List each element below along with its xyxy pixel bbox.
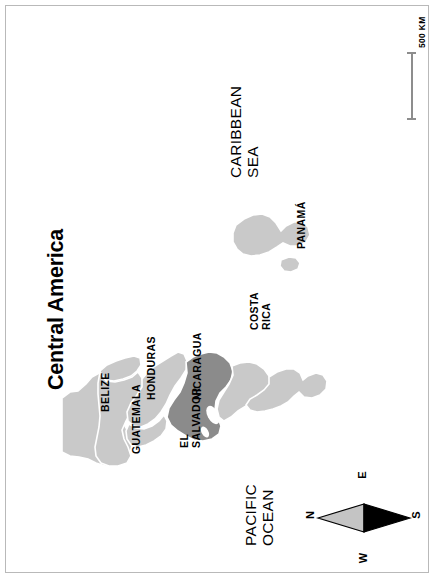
country-label-el-salvador-line1: EL (178, 434, 190, 448)
scale-bar-label: 500 KM (417, 16, 427, 48)
country-label-nicaragua-text: NICARAGUA (191, 332, 203, 400)
country-label-costa-rica-line1: COSTA (248, 292, 260, 330)
compass-label-north: N (304, 511, 316, 519)
compass-rose: N S E W (300, 466, 428, 570)
ocean-label-pacific-line2: OCEAN (259, 489, 276, 546)
ocean-label-caribbean-line1: CARIBBEAN (227, 86, 244, 178)
scale-bar-tick-bottom (407, 118, 416, 120)
ocean-label-caribbean-line2: SEA (244, 146, 261, 178)
ocean-label-pacific: PACIFIC OCEAN (243, 484, 276, 546)
country-label-costa-rica-line2: RICA (260, 303, 272, 330)
map-canvas: Central America CARIBBEAN SEA PACIFIC OC… (0, 0, 435, 580)
country-label-panama-text: PANAMÁ (295, 201, 307, 249)
country-label-guatemala: GUATEMALA (131, 384, 143, 454)
country-label-nicaragua: NICARAGUA (192, 332, 204, 400)
compass-label-west: W (357, 553, 369, 563)
scale-bar-line (411, 52, 413, 120)
compass-label-east: E (356, 471, 368, 478)
ocean-label-pacific-line1: PACIFIC (242, 484, 259, 546)
country-label-guatemala-text: GUATEMALA (130, 384, 142, 454)
ocean-label-caribbean: CARIBBEAN SEA (228, 86, 261, 178)
compass-label-south: S (410, 511, 422, 518)
page-title: Central America (44, 229, 69, 390)
country-label-belize-text: BELIZE (99, 372, 111, 412)
country-label-belize: BELIZE (100, 372, 112, 412)
country-label-honduras: HONDURAS (146, 336, 158, 400)
country-label-panama: PANAMÁ (296, 201, 308, 249)
country-label-honduras-text: HONDURAS (145, 336, 157, 400)
country-label-costa-rica: COSTA RICA (249, 292, 273, 330)
landmass-caribbean-isle-small (280, 257, 300, 272)
